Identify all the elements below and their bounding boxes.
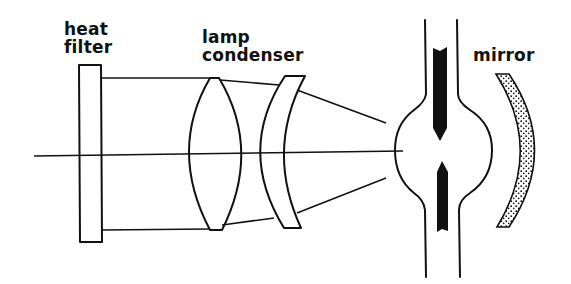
heat-filter-plate — [79, 65, 102, 242]
ray-bottom-meniscus-to-lamp — [297, 178, 386, 213]
mirror-label-text: mirror — [473, 46, 535, 64]
heat-filter-label-line2: filter — [64, 38, 112, 56]
heat-filter-label-line1: heat — [64, 20, 112, 38]
lamp-condenser-label: lamp condenser — [202, 28, 304, 64]
mirror-reflector — [496, 74, 535, 227]
mirror-label: mirror — [473, 46, 535, 64]
lamp-condenser-label-line2: condenser — [202, 46, 304, 64]
ray-top-lens-to-meniscus — [220, 80, 279, 85]
heat-filter-label: heat filter — [64, 20, 112, 56]
lamp-condenser-label-line1: lamp — [202, 28, 304, 46]
lower-electrode — [437, 161, 448, 232]
optical-axis — [34, 151, 403, 156]
ray-bottom-lens-to-meniscus — [222, 218, 274, 225]
ray-top-meniscus-to-lamp — [297, 90, 386, 123]
lamp-bulb — [395, 20, 426, 277]
ray-bottom-filter-to-lens — [102, 229, 209, 230]
upper-electrode — [433, 47, 447, 141]
